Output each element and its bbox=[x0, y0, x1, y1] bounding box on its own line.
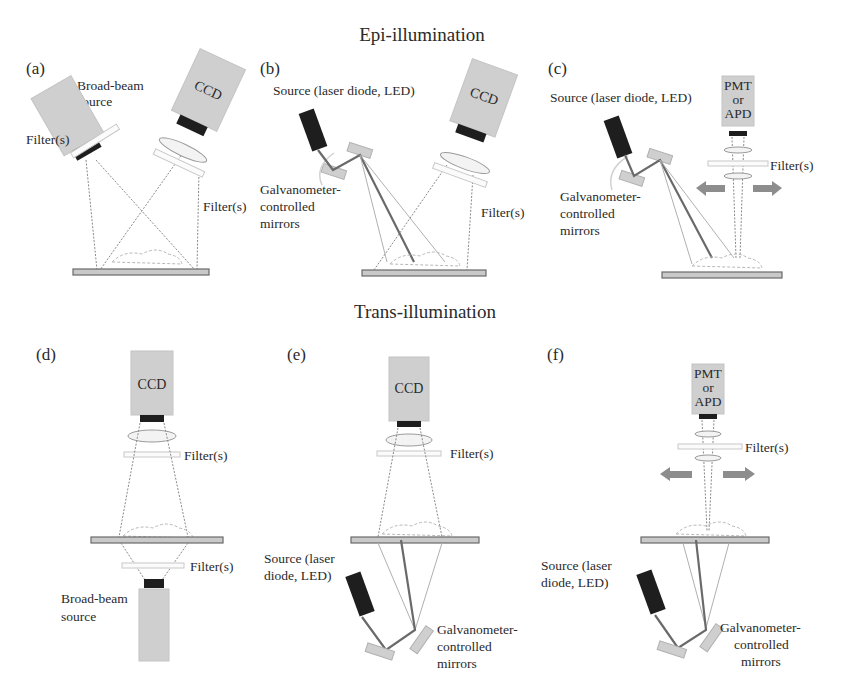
filter-label-top: Filter(s) bbox=[184, 448, 228, 463]
panel-label-a: (a) bbox=[26, 59, 45, 78]
panel-a: (a) Broad-beam source Filter(s) CCD Filt… bbox=[26, 49, 247, 275]
lens-icon bbox=[724, 147, 752, 153]
lens-icon bbox=[128, 430, 176, 442]
broad-beam-source-label: Broad-beam bbox=[61, 591, 128, 606]
filter-label: Filter(s) bbox=[770, 158, 814, 173]
lens-icon bbox=[386, 434, 432, 446]
filter-icon bbox=[678, 444, 742, 449]
ccd-label: CCD bbox=[138, 377, 167, 392]
pmt-label: PMT bbox=[724, 78, 753, 93]
galvo-mirror bbox=[321, 163, 347, 179]
excitation-beam bbox=[362, 540, 415, 650]
galvo-mirror bbox=[657, 641, 686, 658]
panel-label-e: (e) bbox=[287, 345, 306, 364]
or-label: or bbox=[702, 380, 714, 395]
scan-ray bbox=[360, 155, 445, 262]
panel-label-d: (d) bbox=[36, 345, 56, 364]
scan-ray bbox=[660, 160, 734, 258]
sample-stage bbox=[91, 537, 223, 543]
apd-label: APD bbox=[694, 394, 721, 409]
source-label: Source (laser diode, LED) bbox=[273, 83, 415, 98]
ray bbox=[96, 160, 195, 270]
laser-source bbox=[345, 572, 374, 617]
ray bbox=[740, 137, 744, 258]
panel-label-f: (f) bbox=[547, 345, 564, 364]
panel-e: (e) CCD Filter(s) Source (laser diode, L… bbox=[264, 345, 518, 671]
mirrors-label-line2: controlled bbox=[260, 199, 315, 214]
or-label: or bbox=[732, 92, 744, 107]
filter-label-left: Filter(s) bbox=[26, 132, 70, 147]
filter-label-right: Filter(s) bbox=[203, 199, 247, 214]
filter-icon bbox=[124, 452, 180, 457]
lens-icon bbox=[695, 455, 721, 461]
mirrors-label-line2: controlled bbox=[437, 639, 492, 654]
mirrors-label-line3: mirrors bbox=[741, 654, 781, 669]
galvo-mirror bbox=[365, 643, 394, 660]
mirrors-label-line2: controlled bbox=[560, 206, 615, 221]
detector-sensor bbox=[729, 131, 747, 136]
sample-stage bbox=[362, 270, 486, 276]
mirrors-label-line3: mirrors bbox=[437, 656, 477, 671]
pmt-apd-detector: PMT or APD bbox=[722, 76, 754, 136]
ccd-camera: CCD bbox=[389, 357, 429, 427]
ccd-sensor bbox=[140, 415, 164, 422]
source-label-line2: diode, LED) bbox=[541, 575, 608, 590]
sample-mouse bbox=[382, 522, 452, 536]
detector-sensor bbox=[699, 414, 717, 419]
ccd-camera: CCD bbox=[167, 49, 245, 141]
ccd-sensor bbox=[397, 421, 421, 427]
filter-label: Filter(s) bbox=[450, 446, 494, 461]
filter-label: Filter(s) bbox=[481, 205, 525, 220]
scan-ray bbox=[683, 543, 706, 628]
sample-mouse bbox=[390, 252, 460, 266]
apd-label: APD bbox=[724, 106, 751, 121]
mirrors-label: Galvanometer- bbox=[720, 620, 801, 635]
broad-beam-source bbox=[139, 579, 169, 661]
source-label: Source (laser bbox=[541, 558, 612, 573]
ray bbox=[100, 150, 185, 270]
panel-d: (d) CCD Filter(s) Filter(s) Broad-beam s… bbox=[36, 345, 234, 661]
ray bbox=[467, 175, 473, 270]
galvo-mirror bbox=[647, 148, 673, 164]
scan-arrow-right-icon bbox=[723, 467, 755, 481]
sample-mouse bbox=[692, 254, 762, 268]
laser-source bbox=[299, 108, 328, 151]
ray bbox=[197, 170, 199, 270]
panel-c: (c) Source (laser diode, LED) Galvanomet… bbox=[548, 59, 814, 278]
pmt-apd-detector: PMT or APD bbox=[692, 364, 724, 419]
scan-arrow-left-icon bbox=[696, 181, 725, 196]
epi-illumination-title: Epi-illumination bbox=[359, 24, 485, 45]
scan-ray bbox=[360, 155, 387, 262]
mirrors-label: Galvanometer- bbox=[260, 182, 341, 197]
panel-f: (f) PMT or APD Filter(s) Source (laser d… bbox=[541, 345, 801, 669]
ray bbox=[732, 137, 736, 258]
filter-icon bbox=[377, 451, 441, 456]
source-label-line2: diode, LED) bbox=[264, 568, 331, 583]
mirrors-label-line2: controlled bbox=[734, 637, 789, 652]
panel-label-c: (c) bbox=[548, 59, 567, 78]
ccd-camera: CCD bbox=[131, 351, 173, 422]
lens-icon bbox=[695, 431, 721, 437]
scan-ray bbox=[378, 543, 415, 630]
sample-mouse bbox=[123, 524, 193, 538]
mirrors-label: Galvanometer- bbox=[437, 622, 518, 637]
sample-stage bbox=[351, 537, 479, 543]
scan-arrow-left-icon bbox=[660, 467, 692, 481]
ray bbox=[86, 160, 97, 270]
broad-beam-source-label: Broad-beam bbox=[77, 78, 144, 93]
sample-stage bbox=[641, 537, 769, 543]
pmt-label: PMT bbox=[694, 366, 723, 381]
fluorescence-imaging-configurations-figure: Epi-illumination Trans-illumination (a) … bbox=[0, 0, 845, 691]
sample-mouse bbox=[676, 522, 746, 536]
sample-stage bbox=[662, 272, 782, 278]
laser-source bbox=[636, 570, 665, 615]
scan-ray bbox=[415, 543, 442, 630]
panel-b: (b) Source (laser diode, LED) Galvanomet… bbox=[260, 59, 525, 276]
mirrors-label: Galvanometer- bbox=[560, 189, 641, 204]
panel-label-b: (b) bbox=[260, 59, 280, 78]
excitation-beam bbox=[655, 540, 706, 648]
filter-label-bottom: Filter(s) bbox=[190, 559, 234, 574]
ccd-camera: CCD bbox=[447, 59, 518, 146]
sample-stage bbox=[73, 269, 209, 275]
ray bbox=[162, 543, 188, 580]
